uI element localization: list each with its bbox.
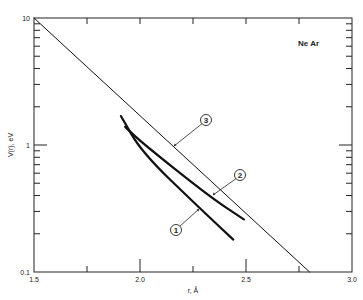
callout-number: 2 xyxy=(238,171,243,180)
y-tick-label: 1 xyxy=(26,142,30,149)
x-tick-label: 3.0 xyxy=(347,276,357,283)
chart-annotation: Ne Ar xyxy=(298,39,319,48)
y-axis-label: V(r), eV xyxy=(7,133,15,157)
y-tick-label: 0.1 xyxy=(20,269,30,276)
x-tick-label: 1.5 xyxy=(29,276,39,283)
callout-leader xyxy=(179,209,199,227)
y-tick-label: 10 xyxy=(22,15,30,22)
x-tick-label: 2.0 xyxy=(135,276,145,283)
series-line-1 xyxy=(121,116,233,240)
axis-ticks xyxy=(34,18,352,272)
callout-leader xyxy=(174,123,203,146)
plot-border xyxy=(34,18,352,272)
x-tick-label: 2.5 xyxy=(241,276,251,283)
plot-frame xyxy=(34,18,352,272)
series-line-2 xyxy=(125,127,244,219)
chart: 1.52.02.53.00.1110 123 Ne Ar r, Å V(r), … xyxy=(0,0,363,300)
x-axis-label: r, Å xyxy=(188,286,199,294)
callout-number: 3 xyxy=(204,116,209,125)
callout-number: 1 xyxy=(174,226,179,235)
tick-labels: 1.52.02.53.00.1110 xyxy=(20,15,357,283)
